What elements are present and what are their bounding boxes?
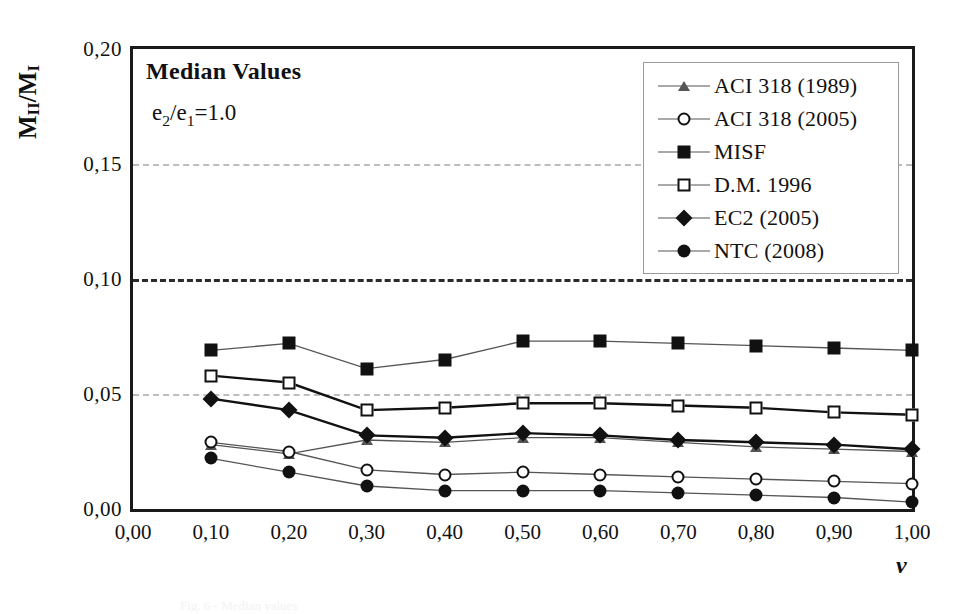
- legend-marker-circle-open-icon: [658, 110, 710, 128]
- y-tick-label: 0,00: [83, 497, 122, 522]
- series-line: [211, 376, 912, 415]
- legend-symbol: [678, 81, 690, 91]
- data-point: [438, 401, 451, 414]
- legend-label: MISF: [710, 139, 766, 165]
- data-point: [750, 489, 763, 502]
- legend-marker-square-filled-icon: [658, 143, 710, 161]
- data-point: [906, 477, 919, 490]
- data-point: [204, 344, 217, 357]
- legend-item-ntc-2008: NTC (2008): [644, 234, 898, 267]
- legend-marker-triangle-open-icon: [658, 77, 710, 95]
- data-point: [360, 480, 373, 493]
- legend-label: NTC (2008): [710, 238, 824, 264]
- data-point: [672, 337, 685, 350]
- data-point: [906, 344, 919, 357]
- series-line: [211, 399, 912, 450]
- legend-symbol: [676, 209, 693, 226]
- legend-label: ACI 318 (2005): [710, 106, 857, 132]
- caption-remnant: Fig. 6 - Median values: [180, 598, 740, 612]
- legend-label: EC2 (2005): [710, 205, 819, 231]
- annotation-median-values: Median Values: [146, 58, 301, 85]
- legend-symbol: [678, 145, 691, 158]
- data-point: [828, 475, 841, 488]
- x-tick-label: 0,40: [426, 520, 463, 545]
- data-point: [516, 397, 529, 410]
- figure-median-values: MII/MI 0,200,150,100,050,00 Median Value…: [0, 0, 956, 614]
- x-tick-label: 0,30: [348, 520, 385, 545]
- legend: ACI 318 (1989)ACI 318 (2005)MISFD.M. 199…: [643, 62, 899, 274]
- y-tick-label: 0,20: [83, 37, 122, 62]
- legend-marker-circle-filled-icon: [658, 242, 710, 260]
- data-point: [906, 408, 919, 421]
- data-point: [438, 353, 451, 366]
- x-tick-label: 0,70: [660, 520, 697, 545]
- legend-item-aci-318-2005: ACI 318 (2005): [644, 102, 898, 135]
- data-point: [204, 436, 217, 449]
- data-point: [360, 362, 373, 375]
- data-point: [594, 484, 607, 497]
- data-point: [204, 452, 217, 465]
- data-point: [360, 404, 373, 417]
- data-point: [828, 342, 841, 355]
- data-point: [672, 470, 685, 483]
- series-line: [211, 438, 912, 454]
- legend-item-misf: MISF: [644, 135, 898, 168]
- data-point: [516, 466, 529, 479]
- y-tick-label: 0,05: [83, 382, 122, 407]
- data-point: [516, 484, 529, 497]
- data-point: [282, 466, 295, 479]
- data-point: [360, 463, 373, 476]
- x-tick-label: 0,60: [582, 520, 619, 545]
- data-point: [594, 397, 607, 410]
- series-line: [211, 341, 912, 369]
- legend-marker-square-open-icon: [658, 176, 710, 194]
- data-point: [750, 339, 763, 352]
- x-tick-label: 1,00: [894, 520, 931, 545]
- data-point: [828, 491, 841, 504]
- data-point: [516, 335, 529, 348]
- data-point: [672, 486, 685, 499]
- x-tick-label: 0,50: [504, 520, 541, 545]
- data-point: [438, 468, 451, 481]
- legend-marker-diamond-filled-icon: [658, 209, 710, 227]
- data-point: [594, 335, 607, 348]
- y-axis-tick-labels: 0,200,150,100,050,00: [40, 46, 122, 512]
- legend-label: D.M. 1996: [710, 172, 812, 198]
- data-point: [204, 369, 217, 382]
- data-point: [672, 399, 685, 412]
- x-axis-tick-labels: 0,000,100,200,300,400,500,600,700,800,90…: [130, 520, 915, 552]
- legend-symbol: [678, 244, 691, 257]
- y-tick-label: 0,15: [83, 152, 122, 177]
- legend-symbol: [678, 178, 691, 191]
- data-point: [594, 468, 607, 481]
- y-tick-label: 0,10: [83, 267, 122, 292]
- data-point: [750, 401, 763, 414]
- x-tick-label: 0,80: [738, 520, 775, 545]
- legend-label: ACI 318 (1989): [710, 73, 857, 99]
- legend-item-aci-318-1989: ACI 318 (1989): [644, 69, 898, 102]
- data-point: [750, 473, 763, 486]
- x-axis-label: ν: [896, 552, 907, 579]
- x-tick-label: 0,00: [115, 520, 152, 545]
- legend-symbol: [678, 112, 691, 125]
- data-point: [438, 484, 451, 497]
- data-point: [906, 496, 919, 509]
- data-point: [828, 406, 841, 419]
- annotation-eccentricity-ratio: e2/e1=1.0: [152, 100, 236, 130]
- legend-item-d-m-1996: D.M. 1996: [644, 168, 898, 201]
- x-tick-label: 0,10: [193, 520, 230, 545]
- data-point: [282, 376, 295, 389]
- legend-item-ec2-2005: EC2 (2005): [644, 201, 898, 234]
- data-point: [282, 337, 295, 350]
- data-point: [282, 445, 295, 458]
- x-tick-label: 0,90: [816, 520, 853, 545]
- x-tick-label: 0,20: [270, 520, 307, 545]
